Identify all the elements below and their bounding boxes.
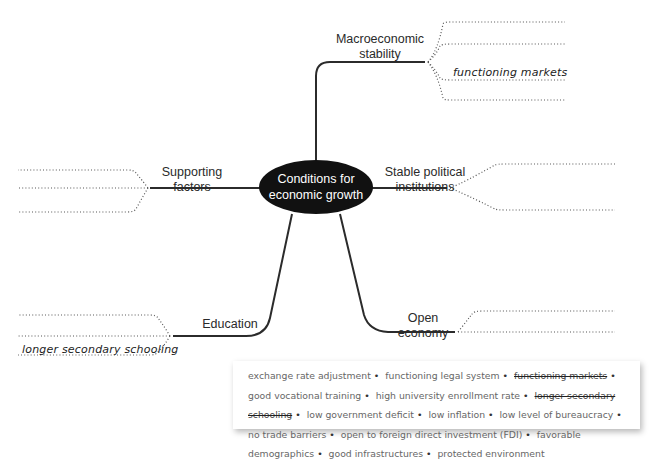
slot-macro-3[interactable]: functioning markets: [453, 66, 567, 79]
word-item[interactable]: open to foreign direct investment (FDI): [341, 429, 523, 440]
branch-label-open: Openeconomy: [388, 311, 458, 341]
word-item[interactable]: exchange rate adjustment: [248, 370, 371, 381]
word-item-used[interactable]: functioning markets: [514, 370, 607, 381]
slot-education-3[interactable]: longer secondary schooling: [22, 343, 179, 356]
center-line-2: economic growth: [259, 187, 373, 203]
center-line-1: Conditions for: [259, 171, 373, 187]
slot-open-2[interactable]: [482, 318, 615, 332]
slot-macro-1[interactable]: [450, 8, 565, 22]
slot-supporting-3[interactable]: [18, 198, 128, 212]
branch-label-macro: Macroeconomicstability: [330, 32, 430, 62]
branch-label-supporting: Supportingfactors: [152, 165, 232, 195]
slot-macro-4[interactable]: [450, 86, 565, 100]
word-item[interactable]: low level of bureaucracy: [500, 409, 614, 420]
word-item[interactable]: high university enrollment rate: [376, 390, 520, 401]
word-bank: exchange rate adjustment• functioning le…: [233, 361, 640, 429]
word-item[interactable]: functioning legal system: [385, 370, 499, 381]
word-item[interactable]: no trade barriers: [248, 429, 326, 440]
slot-education-2[interactable]: [18, 322, 150, 336]
branch-label-political: Stable politicalinstitutions: [380, 165, 470, 195]
slot-open-1[interactable]: [482, 297, 615, 311]
slot-education-1[interactable]: [18, 301, 150, 315]
word-item[interactable]: low government deficit: [307, 409, 414, 420]
slot-macro-2[interactable]: [450, 30, 565, 44]
word-item[interactable]: good infrastructures: [329, 448, 423, 459]
word-item[interactable]: protected environment: [437, 448, 544, 459]
slot-political-1[interactable]: [505, 150, 615, 164]
center-node-label: Conditions for economic growth: [259, 171, 373, 203]
slot-supporting-1[interactable]: [18, 156, 128, 170]
slot-supporting-2[interactable]: [18, 174, 128, 188]
branch-line-macro: [316, 62, 425, 168]
word-item[interactable]: good vocational training: [248, 390, 361, 401]
slot-political-2[interactable]: [505, 196, 615, 210]
branch-label-education: Education: [195, 317, 265, 332]
word-item[interactable]: low inflation: [428, 409, 485, 420]
